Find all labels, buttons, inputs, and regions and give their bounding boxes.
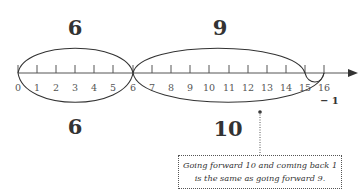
- tick-label: 0: [15, 82, 21, 93]
- jump-label-bottom-left: 6: [68, 114, 83, 139]
- tick-label: 5: [110, 82, 116, 93]
- tick-label: 10: [203, 82, 215, 93]
- jump-label-top-left: 6: [68, 15, 83, 40]
- callout-line-1: Going forward 10 and coming back 1: [179, 159, 341, 172]
- tick-label: 14: [280, 82, 292, 93]
- jump-label-top-right: 9: [213, 15, 228, 40]
- explanation-callout: Going forward 10 and coming back 1 is th…: [178, 155, 342, 189]
- tick-label: 1: [34, 82, 40, 93]
- tick-label: 16: [318, 82, 330, 93]
- tick-label: 12: [242, 82, 254, 93]
- tick-label: 3: [72, 82, 78, 93]
- callout-line-2: is the same as going forward 9.: [179, 172, 341, 185]
- jump-arc-back-16-15: [305, 73, 324, 82]
- back-step-label: − 1: [320, 95, 339, 106]
- tick-label: 11: [223, 82, 235, 93]
- jump-label-bottom-right: 10: [213, 116, 242, 141]
- tick-marks: [18, 65, 324, 73]
- tick-label: 9: [187, 82, 193, 93]
- tick-labels: 0 1 2 3 4 5 6 7 8 9 10 11 12 13 14 15 16: [15, 82, 330, 93]
- tick-label: 8: [168, 82, 174, 93]
- tick-label: 6: [130, 82, 136, 93]
- tick-label: 2: [53, 82, 59, 93]
- jump-arc-top-6-15: [133, 48, 305, 73]
- tick-label: 15: [299, 82, 311, 93]
- tick-label: 4: [91, 82, 97, 93]
- arrow-head-icon: [348, 69, 358, 77]
- tick-label: 13: [261, 82, 273, 93]
